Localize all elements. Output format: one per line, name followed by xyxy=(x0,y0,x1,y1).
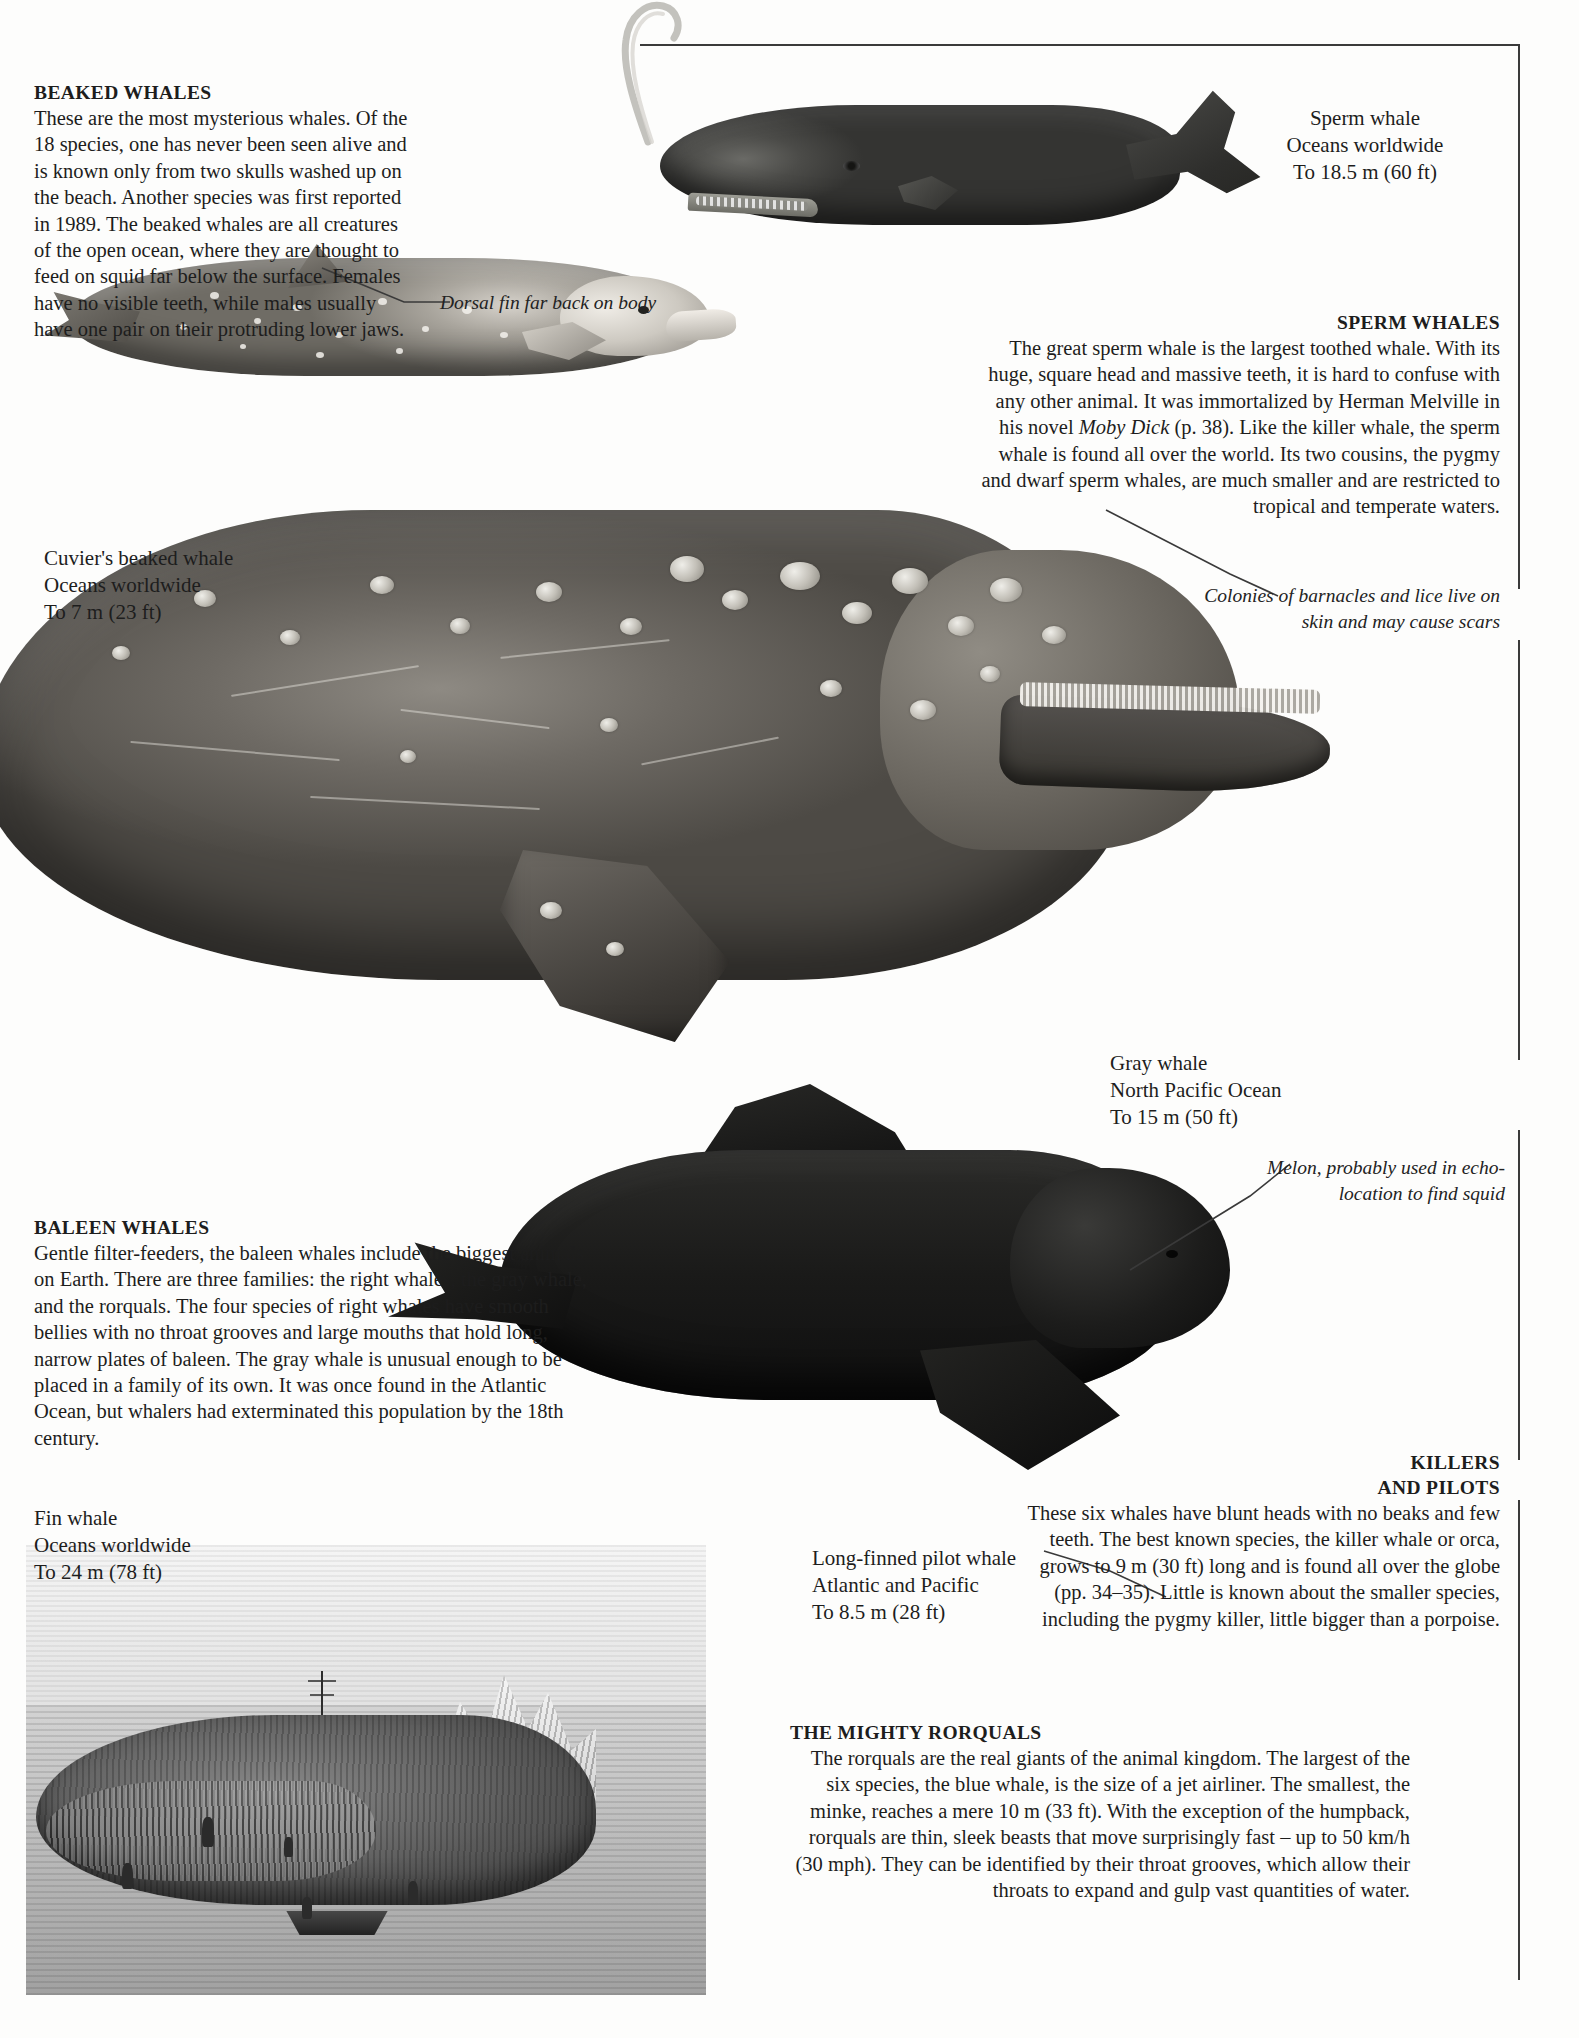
engraving-figure xyxy=(122,1863,133,1889)
fin-whale-engraving xyxy=(26,1545,706,1995)
annotation-melon: Melon, probably used in echo-location to… xyxy=(1215,1155,1505,1206)
sperm-whales-heading: SPERM WHALES xyxy=(970,310,1500,335)
annotation-barnacles: Colonies of barnacles and lice live on s… xyxy=(1180,583,1500,634)
killers-heading-line-2: AND PILOTS xyxy=(1010,1475,1500,1500)
pilot-whale-caption-range: Atlantic and Pacific xyxy=(812,1572,1112,1599)
sperm-whales-book-title: Moby Dick xyxy=(1079,416,1170,438)
reference-page: BEAKED WHALES These are the most mysteri… xyxy=(0,0,1579,2038)
page-rule-right-3 xyxy=(1518,1130,1520,1460)
cuvier-caption-range: Oceans worldwide xyxy=(44,572,364,599)
beaked-whales-section: BEAKED WHALES These are the most mysteri… xyxy=(34,80,414,343)
pilot-whale-caption: Long-finned pilot whale Atlantic and Pac… xyxy=(812,1545,1112,1626)
annotation-dorsal-fin: Dorsal fin far back on body xyxy=(440,290,720,316)
beaked-whales-body: These are the most mysterious whales. Of… xyxy=(34,105,414,343)
engraving-figure xyxy=(408,1881,418,1905)
sperm-whales-body: The great sperm whale is the largest too… xyxy=(970,335,1500,520)
engraving-figure xyxy=(202,1817,214,1847)
fin-whale-caption-name: Fin whale xyxy=(34,1505,334,1532)
cuvier-caption-size: To 7 m (23 ft) xyxy=(44,599,364,626)
page-rule-right-1 xyxy=(1518,44,1520,589)
pilot-whale-caption-size: To 8.5 m (28 ft) xyxy=(812,1599,1112,1626)
engraving-figure xyxy=(302,1897,312,1919)
pilot-whale-head-melon xyxy=(1010,1168,1230,1348)
sperm-whales-section: SPERM WHALES The great sperm whale is th… xyxy=(970,310,1500,520)
page-rule-right-4 xyxy=(1518,1500,1520,1980)
sperm-whale-illustration xyxy=(640,0,1260,270)
rorquals-heading: THE MIGHTY RORQUALS xyxy=(790,1720,1410,1745)
sperm-whale-caption-name: Sperm whale xyxy=(1230,105,1500,132)
gray-whale-caption-name: Gray whale xyxy=(1110,1050,1410,1077)
pilot-whale-caption-name: Long-finned pilot whale xyxy=(812,1545,1112,1572)
rorquals-body-text: The rorquals are the real giants of the … xyxy=(796,1747,1410,1901)
gray-whale-caption-size: To 15 m (50 ft) xyxy=(1110,1104,1410,1131)
fin-whale-caption-size: To 24 m (78 ft) xyxy=(34,1559,334,1586)
baleen-whales-heading: BALEEN WHALES xyxy=(34,1215,604,1240)
sperm-whale-caption: Sperm whale Oceans worldwide To 18.5 m (… xyxy=(1230,105,1500,186)
beaked-whales-heading: BEAKED WHALES xyxy=(34,80,414,105)
pilot-whale-eye xyxy=(1166,1250,1178,1258)
killers-heading-line-1: KILLERS xyxy=(1010,1450,1500,1475)
fin-whale-caption: Fin whale Oceans worldwide To 24 m (78 f… xyxy=(34,1505,334,1586)
gray-whale-caption-range: North Pacific Ocean xyxy=(1110,1077,1410,1104)
fin-whale-caption-range: Oceans worldwide xyxy=(34,1532,334,1559)
mighty-rorquals-section: THE MIGHTY RORQUALS The rorquals are the… xyxy=(790,1720,1410,1903)
gray-whale-caption: Gray whale North Pacific Ocean To 15 m (… xyxy=(1110,1050,1410,1131)
engraving-whaling-boat xyxy=(282,1911,392,1935)
cuvier-caption-name: Cuvier's beaked whale xyxy=(44,545,364,572)
cuviers-beaked-whale-caption: Cuvier's beaked whale Oceans worldwide T… xyxy=(44,545,364,626)
page-rule-right-2 xyxy=(1518,640,1520,1060)
sperm-whale-eye xyxy=(843,161,860,171)
sperm-whale-caption-size: To 18.5 m (60 ft) xyxy=(1230,159,1500,186)
baleen-whales-section: BALEEN WHALES Gentle filter-feeders, the… xyxy=(34,1215,604,1451)
baleen-whales-body: Gentle filter-feeders, the baleen whales… xyxy=(34,1240,604,1451)
engraving-figure xyxy=(284,1837,293,1857)
sperm-whale-caption-range: Oceans worldwide xyxy=(1230,132,1500,159)
rorquals-body: The rorquals are the real giants of the … xyxy=(790,1745,1410,1903)
